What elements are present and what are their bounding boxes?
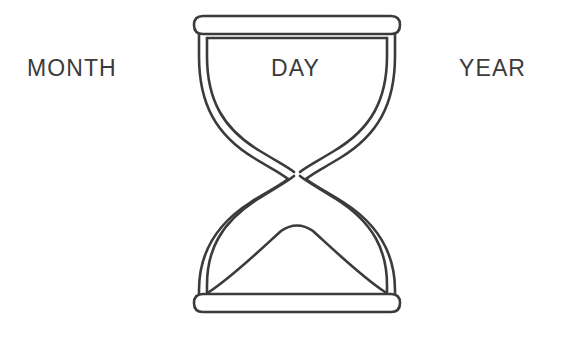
label-month: MONTH: [27, 57, 117, 80]
lower-chamber-inner-wall: [207, 176, 294, 292]
top-cap: [194, 16, 400, 34]
label-year: YEAR: [459, 57, 526, 80]
hourglass-icon: [0, 0, 574, 339]
sand-mound: [209, 226, 385, 293]
diagram-canvas: MONTH DAY YEAR: [0, 0, 574, 339]
lower-chamber-inner-wall-right: [300, 176, 387, 292]
bottom-cap: [194, 294, 400, 312]
label-day: DAY: [271, 57, 320, 80]
